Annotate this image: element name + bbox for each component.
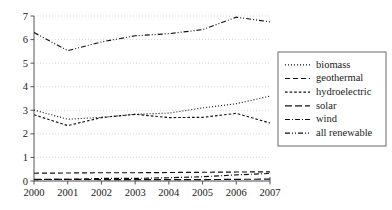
- legend-label-biomass: biomass: [316, 59, 350, 70]
- gridlines: [34, 16, 270, 181]
- y-tick-label: 5: [23, 58, 28, 69]
- x-tick-label: 2004: [158, 187, 180, 198]
- chart-canvas: 01234567 2000200120022003200420052006200…: [0, 0, 392, 210]
- y-tick-label: 1: [23, 152, 28, 163]
- chart-legend: biomassgeothermalhydroelectricsolarwinda…: [278, 52, 386, 146]
- x-tick-label: 2002: [91, 187, 112, 198]
- y-tick-label: 4: [23, 81, 29, 92]
- y-tick-label: 3: [23, 105, 28, 116]
- y-tick-label: 6: [23, 34, 28, 45]
- legend-label-geothermal: geothermal: [316, 72, 363, 83]
- legend-label-hydroelectric: hydroelectric: [316, 86, 372, 97]
- y-tick-labels: 01234567: [23, 11, 29, 187]
- x-tick-label: 2003: [125, 187, 146, 198]
- legend-label-all-renewable: all renewable: [316, 127, 373, 138]
- x-tick-labels: 20002001200220032004200520062007: [24, 187, 281, 198]
- x-tick-label: 2005: [192, 187, 213, 198]
- x-tick-label: 2006: [226, 187, 247, 198]
- data-series: [34, 17, 270, 179]
- series-line-wind: [34, 173, 270, 179]
- series-line-all-renewable: [34, 17, 270, 50]
- line-chart: 01234567 2000200120022003200420052006200…: [0, 0, 392, 210]
- x-tick-label: 2000: [24, 187, 45, 198]
- legend-label-solar: solar: [316, 100, 337, 111]
- y-tick-label: 7: [23, 11, 28, 22]
- series-line-geothermal: [34, 172, 270, 173]
- y-tick-label: 0: [23, 176, 28, 187]
- x-tick-label: 2001: [57, 187, 78, 198]
- legend-label-wind: wind: [316, 113, 338, 124]
- axes: [31, 16, 271, 185]
- y-tick-label: 2: [23, 128, 28, 139]
- x-tick-label: 2007: [260, 187, 281, 198]
